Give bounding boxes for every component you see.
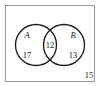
venn-diagram-figure: A B 17 12 13 15 bbox=[0, 0, 101, 86]
venn-diagram-canvas: A B 17 12 13 15 bbox=[0, 0, 101, 86]
set-b-only-count: 13 bbox=[69, 50, 78, 60]
set-b-label: B bbox=[70, 30, 75, 40]
outside-count: 15 bbox=[85, 70, 94, 80]
set-a-only-count: 17 bbox=[23, 50, 32, 60]
intersection-count: 12 bbox=[46, 40, 55, 50]
set-a-label: A bbox=[23, 30, 30, 40]
